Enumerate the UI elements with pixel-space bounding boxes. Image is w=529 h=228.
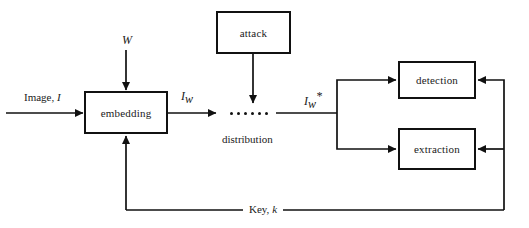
node-attack-label: attack: [240, 27, 267, 39]
label-key-symbol: k: [272, 203, 277, 215]
dot-6: [265, 112, 268, 115]
watermarking-diagram: embedding attack detection extraction Im…: [0, 0, 529, 228]
label-attacked-image: Iw*: [304, 90, 322, 110]
label-key: Key, k: [243, 204, 283, 215]
dot-2: [237, 112, 240, 115]
dot-1: [230, 112, 233, 115]
label-image-input-symbol: I: [57, 91, 61, 103]
dot-3: [244, 112, 247, 115]
dot-5: [258, 112, 261, 115]
edge-key-to-detection: [478, 80, 504, 210]
node-detection-label: detection: [416, 74, 458, 86]
node-embedding[interactable]: embedding: [84, 91, 168, 134]
node-extraction[interactable]: extraction: [398, 128, 476, 170]
label-distribution: distribution: [222, 134, 273, 145]
node-embedding-label: embedding: [101, 107, 152, 119]
label-attacked-sub: w: [308, 97, 316, 111]
label-distribution-text: distribution: [222, 133, 273, 145]
dot-4: [251, 112, 254, 115]
node-extraction-label: extraction: [414, 143, 460, 155]
label-watermarked-image: Iw: [181, 90, 193, 105]
label-watermarked-sub: w: [185, 92, 193, 106]
label-watermark-text: W: [122, 33, 132, 47]
node-detection[interactable]: detection: [398, 61, 476, 99]
label-image-input-text: Image,: [24, 91, 57, 103]
label-watermark: W: [122, 34, 132, 46]
edge-split-downleg: [337, 113, 396, 149]
label-key-text: Key,: [249, 203, 272, 215]
label-image-input: Image, I: [24, 92, 61, 103]
distribution-dots-icon: [230, 112, 268, 115]
edge-split-riser: [337, 80, 396, 113]
node-attack[interactable]: attack: [216, 11, 291, 54]
label-attacked-sup: *: [316, 89, 322, 103]
